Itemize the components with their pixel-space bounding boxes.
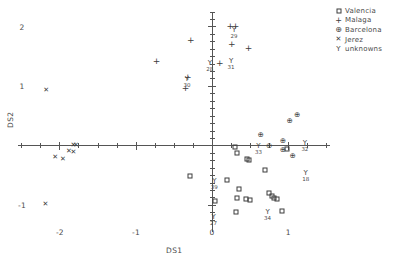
x-tick <box>136 142 137 150</box>
y-tick <box>210 138 215 139</box>
marker-cross-icon: ✕ <box>52 154 58 161</box>
marker-square-icon <box>247 158 252 163</box>
y-tick-label: 1 <box>20 82 25 91</box>
x-tick <box>193 143 194 148</box>
x-tick <box>326 143 327 148</box>
scatter-plot: -2-10121-1 +++++++++⊕⊕⊕⊕⊕⊕⊕✕✕✕✕✕✕✕✕Y29Y3… <box>0 0 416 265</box>
marker-square-icon <box>237 186 242 191</box>
marker-square-icon <box>280 209 285 214</box>
y-tick <box>210 41 215 42</box>
y-tick <box>210 108 215 109</box>
legend-marker-icon: ✕ <box>332 35 345 44</box>
marker-plus-icon: + <box>228 39 236 48</box>
x-tick <box>59 142 60 150</box>
x-tick <box>117 143 118 148</box>
y-tick <box>210 116 215 117</box>
x-tick-label: 1 <box>286 228 291 237</box>
marker-cross-icon: ✕ <box>42 201 48 208</box>
marker-cross-icon: ✕ <box>71 148 77 155</box>
x-tick <box>98 143 99 148</box>
y-tick <box>210 131 215 132</box>
x-tick <box>231 143 232 148</box>
x-axis-title: DS1 <box>166 246 183 255</box>
marker-circle-plus-icon: ⊕ <box>280 137 286 145</box>
marker-circle-plus-icon: ⊕ <box>258 131 264 139</box>
legend-item-barcelona: ⊕Barcelona <box>332 25 412 35</box>
marker-plus-icon: + <box>216 58 224 67</box>
data-point-label: 30 <box>183 82 190 88</box>
marker-cross-icon: ✕ <box>43 87 49 94</box>
marker-square-icon <box>274 197 279 202</box>
legend-label: Barcelona <box>345 26 382 34</box>
y-tick <box>210 160 215 161</box>
marker-square-icon <box>225 177 230 182</box>
data-point-label: 29 <box>231 33 238 39</box>
marker-square-icon <box>263 167 268 172</box>
marker-square-icon <box>213 199 218 204</box>
marker-square-icon <box>233 210 238 215</box>
marker-plus-icon: + <box>245 44 253 53</box>
y-axis-title: DS2 <box>6 111 15 128</box>
y-tick <box>210 101 215 102</box>
marker-square-icon <box>248 198 253 203</box>
data-point-label: 18 <box>302 176 309 182</box>
legend-item-valencia: Valencia <box>332 6 412 16</box>
data-point-label: 34 <box>264 215 271 221</box>
legend: Valencia+Malaga⊕Barcelona✕JerezYunknowns <box>332 6 412 54</box>
x-tick <box>155 143 156 148</box>
marker-circle-plus-icon: ⊕ <box>290 152 296 160</box>
x-tick-label: -1 <box>132 228 140 237</box>
marker-square-icon <box>187 173 192 178</box>
marker-cross-icon: ✕ <box>60 155 66 162</box>
data-point-label: 32 <box>301 146 308 152</box>
legend-label: Valencia <box>345 7 376 15</box>
y-tick <box>210 12 215 13</box>
y-tick <box>208 145 216 146</box>
marker-square-icon <box>235 150 240 155</box>
y-tick <box>208 205 216 206</box>
y-tick <box>210 93 215 94</box>
y-tick <box>210 123 215 124</box>
marker-circle-plus-icon: ⊕ <box>294 111 300 119</box>
legend-marker-icon: ⊕ <box>332 25 345 34</box>
y-tick-label: -1 <box>18 201 26 210</box>
y-tick <box>210 153 215 154</box>
legend-item-malaga: +Malaga <box>332 16 412 26</box>
data-point-label: 33 <box>255 149 262 155</box>
legend-label: Malaga <box>345 16 372 24</box>
y-tick <box>210 56 215 57</box>
marker-square-icon <box>232 144 237 149</box>
y-tick <box>210 78 215 79</box>
y-tick <box>210 168 215 169</box>
legend-label: unknowns <box>345 45 382 53</box>
data-point-label: 31 <box>228 64 235 70</box>
x-tick-label: -2 <box>56 228 64 237</box>
legend-marker-icon: + <box>332 16 345 25</box>
marker-circle-plus-icon: ⊕ <box>287 117 293 125</box>
y-tick <box>208 86 216 87</box>
x-tick <box>174 143 175 148</box>
marker-square-icon <box>235 196 240 201</box>
y-tick <box>210 175 215 176</box>
marker-square-icon <box>336 8 341 13</box>
legend-label: Jerez <box>345 36 363 44</box>
marker-plus-icon: + <box>153 57 161 66</box>
y-tick <box>210 49 215 50</box>
x-tick <box>250 143 251 148</box>
data-point-label: 28 <box>206 66 213 72</box>
x-tick-label: 0 <box>210 228 215 237</box>
legend-marker-icon <box>332 6 345 15</box>
legend-item-unknowns: Yunknowns <box>332 44 412 54</box>
x-tick <box>40 143 41 148</box>
x-tick <box>21 143 22 148</box>
y-tick <box>210 19 215 20</box>
data-point-label: 27 <box>210 220 217 226</box>
marker-circle-plus-icon: ⊕ <box>280 146 286 154</box>
marker-circle-plus-icon: ⊕ <box>266 142 272 150</box>
y-tick <box>208 26 216 27</box>
legend-item-jerez: ✕Jerez <box>332 35 412 45</box>
y-tick <box>210 34 215 35</box>
data-point-label: 39 <box>211 184 218 190</box>
legend-marker-icon: Y <box>332 45 345 54</box>
y-tick-label: 2 <box>20 22 25 31</box>
